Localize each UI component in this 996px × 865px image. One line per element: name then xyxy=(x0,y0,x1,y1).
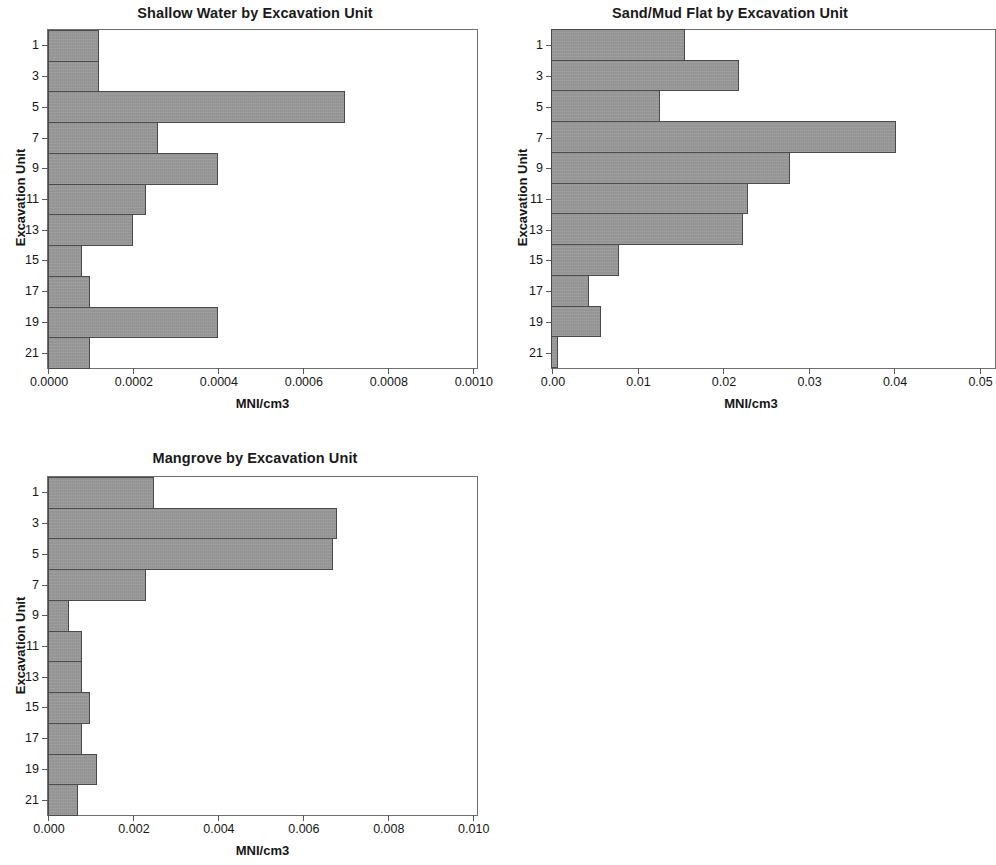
bar xyxy=(48,91,345,123)
y-axis-tick-label: 9 xyxy=(32,161,39,175)
y-axis-tick-label: 17 xyxy=(25,731,39,745)
y-axis-tick: 5 xyxy=(42,107,48,108)
bar xyxy=(48,477,154,509)
bar xyxy=(48,245,82,277)
x-axis-tick: 0.0008 xyxy=(388,368,389,374)
chart-panel-sand-mud-flat: Sand/Mud Flat by Excavation Unit Excavat… xyxy=(500,0,981,420)
y-axis-tick-label: 17 xyxy=(529,284,543,298)
bar xyxy=(48,661,82,693)
y-axis-tick-label: 17 xyxy=(25,284,39,298)
bar xyxy=(48,337,90,369)
x-axis-tick-label: 0.0000 xyxy=(30,375,68,389)
y-axis-tick: 13 xyxy=(42,230,48,231)
y-axis-tick-label: 9 xyxy=(536,161,543,175)
y-axis-tick-label: 5 xyxy=(536,100,543,114)
bars-layer xyxy=(48,477,477,815)
y-axis-title: Excavation Unit xyxy=(515,138,530,258)
y-axis-tick: 1 xyxy=(42,492,48,493)
x-axis-tick-label: 0.04 xyxy=(883,375,907,389)
x-axis-tick: 0.004 xyxy=(218,815,219,821)
bar xyxy=(551,90,660,122)
x-axis-tick: 0.0000 xyxy=(48,368,49,374)
x-axis-tick-label: 0.0004 xyxy=(200,375,238,389)
bar xyxy=(48,30,99,62)
y-axis-tick: 17 xyxy=(42,738,48,739)
y-axis-tick: 11 xyxy=(42,646,48,647)
y-axis-tick-label: 7 xyxy=(32,131,39,145)
chart-panel-shallow-water: Shallow Water by Excavation Unit Excavat… xyxy=(0,0,490,420)
bar xyxy=(48,692,90,724)
bar xyxy=(551,183,748,215)
bar xyxy=(551,275,589,307)
x-axis-tick-label: 0.0008 xyxy=(370,375,408,389)
bar xyxy=(551,121,896,153)
y-axis-tick-label: 21 xyxy=(529,346,543,360)
chart-title: Mangrove by Excavation Unit xyxy=(30,450,480,466)
y-axis-tick: 15 xyxy=(42,260,48,261)
x-axis-tick: 0.0004 xyxy=(218,368,219,374)
x-axis-tick-label: 0.01 xyxy=(626,375,650,389)
chart-title: Sand/Mud Flat by Excavation Unit xyxy=(520,5,940,21)
x-axis-tick: 0.008 xyxy=(388,815,389,821)
y-axis-tick: 21 xyxy=(42,353,48,354)
y-axis-tick-label: 3 xyxy=(32,516,39,530)
y-axis-tick-label: 11 xyxy=(26,192,39,206)
x-axis-tick-label: 0.0002 xyxy=(115,375,153,389)
bar xyxy=(551,152,790,184)
bar xyxy=(48,538,333,570)
y-axis-tick: 13 xyxy=(42,677,48,678)
y-axis-tick: 19 xyxy=(42,769,48,770)
y-axis-tick: 1 xyxy=(42,45,48,46)
bar xyxy=(48,784,78,816)
x-axis-tick: 0.000 xyxy=(48,815,49,821)
bar xyxy=(551,60,739,92)
bar xyxy=(48,276,90,308)
y-axis-tick: 9 xyxy=(42,168,48,169)
y-axis-tick: 3 xyxy=(42,523,48,524)
bar xyxy=(48,61,99,93)
y-axis-tick: 11 xyxy=(42,199,48,200)
x-axis-tick-label: 0.00 xyxy=(541,375,565,389)
y-axis-tick-label: 11 xyxy=(26,639,39,653)
x-axis-tick-label: 0.02 xyxy=(712,375,736,389)
y-axis-tick: 5 xyxy=(42,554,48,555)
x-axis-tick-label: 0.008 xyxy=(373,822,404,836)
y-axis-tick-label: 19 xyxy=(25,315,39,329)
y-axis-tick-label: 13 xyxy=(25,223,39,237)
bar xyxy=(48,631,82,663)
y-axis-tick: 15 xyxy=(42,707,48,708)
bar xyxy=(48,508,337,540)
x-axis-tick: 0.002 xyxy=(133,815,134,821)
bar xyxy=(48,600,69,632)
bar xyxy=(48,184,146,216)
plot-area: 135791113151719210.0000.0020.0040.0060.0… xyxy=(47,476,478,816)
bar xyxy=(48,214,133,246)
x-axis-tick: 0.010 xyxy=(473,815,474,821)
x-axis-tick: 0.0002 xyxy=(133,368,134,374)
y-axis-tick-label: 15 xyxy=(25,700,39,714)
y-axis-tick-label: 7 xyxy=(32,578,39,592)
bar xyxy=(551,213,743,245)
bar xyxy=(48,569,146,601)
x-axis-tick-label: 0.006 xyxy=(288,822,319,836)
x-axis-tick: 0.0010 xyxy=(473,368,474,374)
bar xyxy=(551,336,558,368)
x-axis-tick-label: 0.004 xyxy=(203,822,234,836)
bars-layer xyxy=(551,29,996,369)
y-axis-tick-label: 21 xyxy=(25,346,39,360)
x-axis-title: MNI/cm3 xyxy=(47,843,478,858)
x-axis-tick-label: 0.03 xyxy=(797,375,821,389)
y-axis-tick: 9 xyxy=(42,615,48,616)
y-axis-tick: 7 xyxy=(42,585,48,586)
y-axis-tick: 21 xyxy=(42,800,48,801)
y-axis-tick-label: 13 xyxy=(25,670,39,684)
y-axis-tick-label: 1 xyxy=(536,38,543,52)
y-axis-tick-label: 19 xyxy=(25,762,39,776)
x-axis-title: MNI/cm3 xyxy=(551,396,951,411)
y-axis-tick-label: 1 xyxy=(32,38,39,52)
y-axis-tick: 19 xyxy=(42,322,48,323)
x-axis-tick-label: 0.05 xyxy=(968,375,992,389)
bar xyxy=(48,122,158,154)
y-axis-tick-label: 5 xyxy=(32,547,39,561)
y-axis-tick-label: 21 xyxy=(25,793,39,807)
